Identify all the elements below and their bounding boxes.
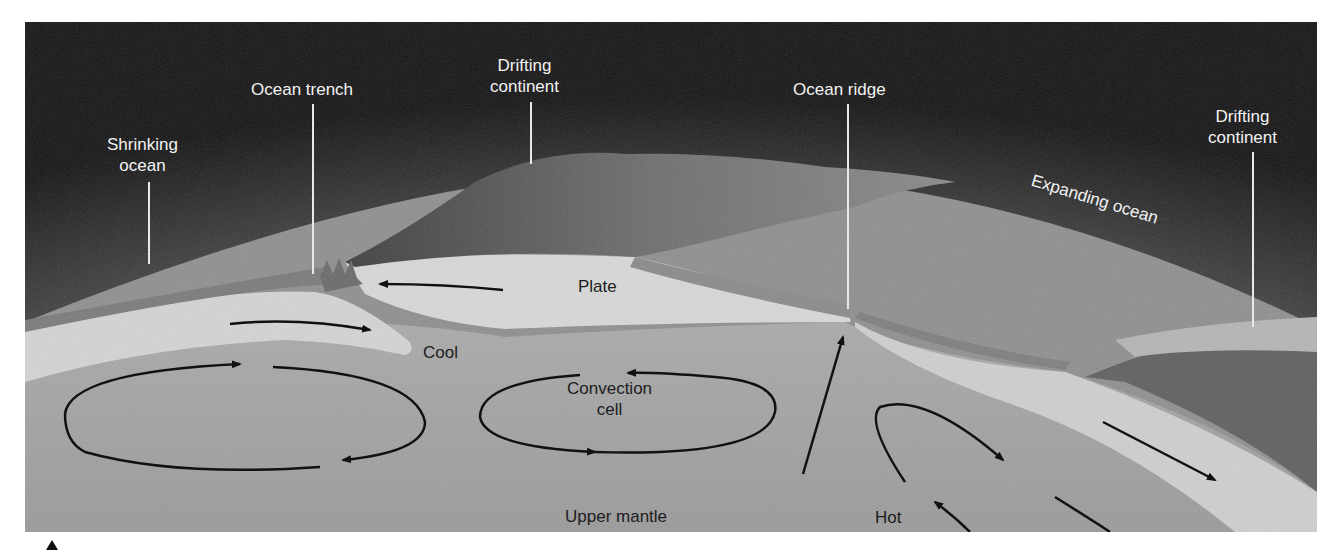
label-ocean-trench: Ocean trench	[251, 79, 353, 100]
label-shrinking-ocean: Shrinking ocean	[107, 134, 178, 176]
label-plate: Plate	[578, 276, 617, 297]
figure-marker-triangle-icon	[46, 540, 58, 550]
label-upper-mantle: Upper mantle	[565, 506, 667, 527]
label-drifting-continent-right: Drifting continent	[1208, 106, 1277, 148]
diagram-artwork	[25, 22, 1317, 532]
leader-drifting-continent-left	[530, 102, 532, 164]
label-ocean-ridge: Ocean ridge	[793, 79, 886, 100]
label-cool: Cool	[423, 342, 458, 363]
tectonics-diagram: Shrinking ocean Ocean trench Drifting co…	[25, 22, 1317, 532]
leader-ocean-trench	[312, 104, 314, 274]
label-drifting-continent-left: Drifting continent	[490, 55, 559, 97]
leader-shrinking-ocean	[148, 182, 150, 264]
label-convection-cell: Convection cell	[567, 378, 652, 420]
leader-drifting-continent-right	[1252, 152, 1254, 327]
leader-ocean-ridge	[847, 104, 849, 309]
label-hot: Hot	[875, 507, 901, 528]
